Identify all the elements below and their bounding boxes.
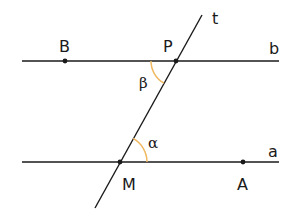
label-b: b [269,39,279,58]
label-P: P [163,37,173,56]
point-A [241,160,246,165]
transversal-t [95,15,202,208]
label-a: a [268,142,278,161]
label-M: M [122,175,136,194]
point-M [118,160,123,165]
angle-alpha-arc [133,138,147,162]
label-beta: β [139,74,148,92]
label-t: t [212,9,218,28]
parallel-lines-diagram: t b B P β α a M A [0,0,294,222]
label-B: B [59,37,70,56]
label-A: A [237,175,248,194]
label-alpha: α [148,134,158,152]
point-B [63,59,68,64]
point-P [174,59,179,64]
angle-beta-arc [151,61,164,83]
